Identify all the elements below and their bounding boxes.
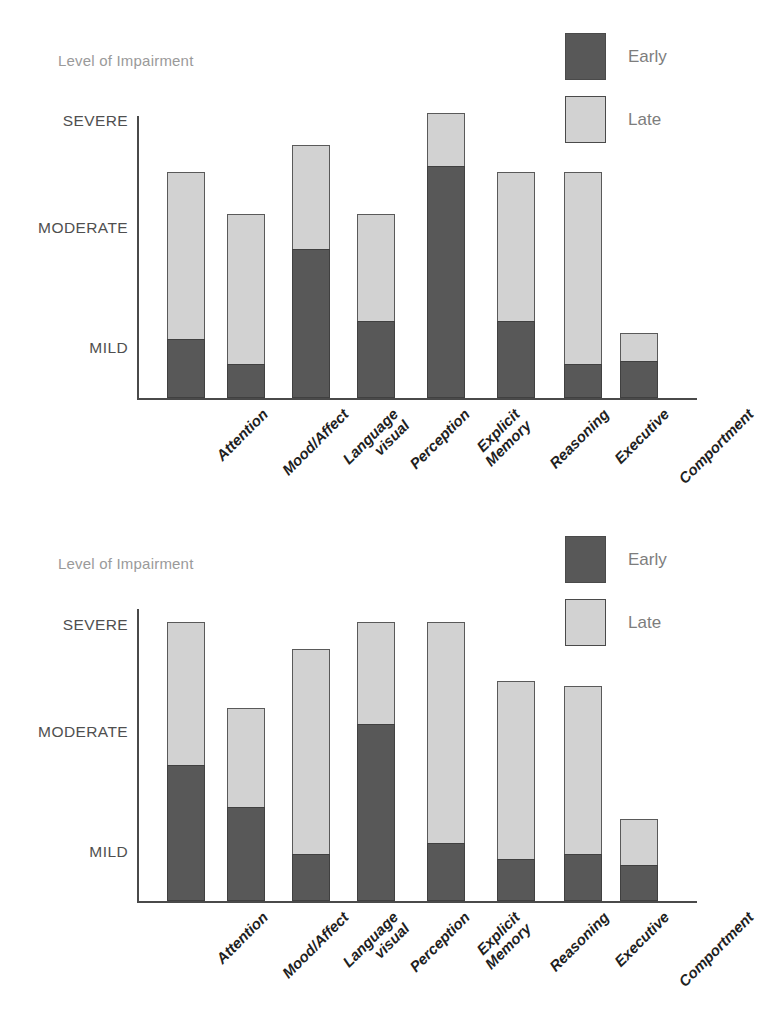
bar-segment-early — [427, 843, 465, 901]
x-axis-label: Attention — [213, 406, 271, 464]
plot-area: AttentionMood/AffectLanguage visualPerce… — [0, 517, 734, 903]
bar-explicit-memory — [427, 622, 465, 901]
chart-panel-top: Level of Impairment Early Late SEVERE MO… — [0, 0, 734, 517]
x-axis-label: Mood/Affect — [279, 406, 351, 478]
x-axis-label: Reasoning — [546, 406, 611, 471]
bar-segment-early — [167, 339, 205, 398]
bar-explicit-memory — [427, 113, 465, 398]
bar-executive — [564, 686, 602, 901]
bar-segment-early — [497, 321, 535, 398]
bar-segment-early — [292, 854, 330, 901]
bar-executive — [564, 172, 602, 399]
bar-language-visual — [292, 145, 330, 398]
x-axis-label: Explicit Memory — [471, 406, 534, 469]
bar-language-visual — [292, 649, 330, 901]
bar-segment-early — [227, 364, 265, 398]
bar-segment-early — [427, 166, 465, 398]
x-axis-label: Mood/Affect — [279, 909, 351, 981]
bar-comportment — [620, 333, 658, 398]
x-axis-label: Executive — [612, 909, 673, 970]
x-axis-label: Executive — [612, 406, 673, 467]
bar-attention — [167, 622, 205, 901]
x-axis-label: Comportment — [676, 909, 757, 990]
x-axis-label: Reasoning — [546, 909, 611, 974]
chart-panel-bottom: Level of Impairment Early Late SEVERE MO… — [0, 517, 734, 1034]
bar-segment-early — [564, 364, 602, 398]
x-axis-label: Perception — [407, 406, 473, 472]
bar-segment-early — [497, 859, 535, 901]
bar-perception — [357, 214, 395, 398]
bar-comportment — [620, 819, 658, 901]
x-axis-label: Perception — [407, 909, 473, 975]
bar-segment-early — [564, 854, 602, 901]
bar-mood-affect — [227, 708, 265, 901]
bar-segment-early — [620, 865, 658, 901]
bar-segment-early — [167, 765, 205, 901]
bar-segment-early — [227, 807, 265, 901]
bar-reasoning — [497, 172, 535, 399]
bar-reasoning — [497, 681, 535, 901]
plot-area: AttentionMood/AffectLanguage visualPerce… — [0, 0, 734, 400]
bar-segment-early — [357, 724, 395, 901]
bar-segment-early — [357, 321, 395, 398]
x-axis-label: Comportment — [676, 406, 757, 487]
bar-segment-early — [620, 361, 658, 398]
bar-segment-early — [292, 249, 330, 398]
bar-mood-affect — [227, 214, 265, 398]
x-axis-label: Attention — [213, 909, 271, 967]
bar-perception — [357, 622, 395, 901]
bar-attention — [167, 172, 205, 399]
x-axis-label: Explicit Memory — [471, 909, 534, 972]
